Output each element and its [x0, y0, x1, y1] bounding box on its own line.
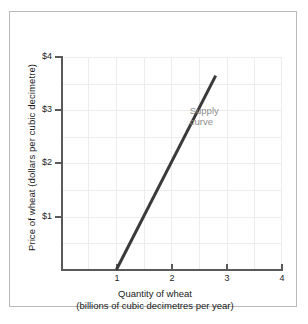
- series-supply-curve: [10, 12, 298, 308]
- supply-curve-annotation: Supply curve: [190, 105, 219, 128]
- figure-frame: $4 $3 $2 $1 1 2 3 4 Price of wheat (doll…: [9, 11, 297, 307]
- supply-curve-annotation-line2: curve: [190, 116, 219, 128]
- supply-curve-annotation-line1: Supply: [190, 105, 219, 117]
